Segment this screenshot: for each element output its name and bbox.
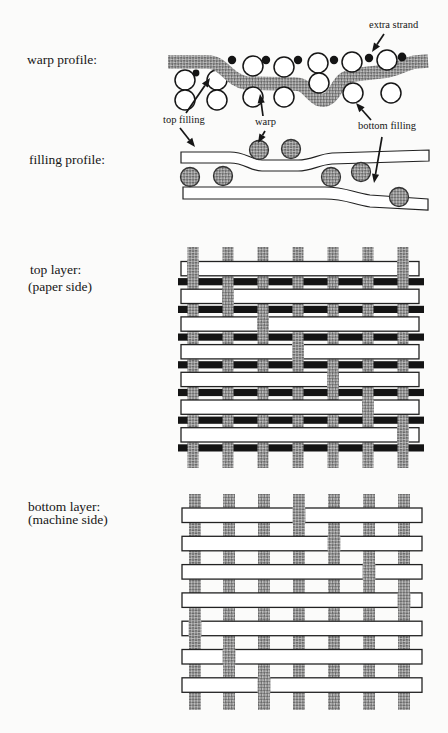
- warp-circle: [181, 168, 200, 187]
- warp-over-strand-patch: [363, 305, 374, 314]
- extra-strand-arrow-head: [372, 43, 380, 52]
- warp-over-strand-patch: [188, 333, 199, 342]
- warp-over-strand-patch: [363, 416, 374, 425]
- extra-strand-dot: [365, 54, 373, 62]
- warp-over-strand-patch: [293, 305, 304, 314]
- filling-band: [181, 289, 419, 303]
- warp-over-strand-patch: [398, 388, 409, 397]
- extra-strand-dot: [262, 56, 270, 64]
- warp-over-strand-patch: [363, 388, 374, 397]
- warp-crossing-patch: [362, 399, 374, 415]
- warp-over-strand-patch: [328, 360, 339, 369]
- warp-circle: [250, 141, 269, 160]
- warp-over-strand-patch: [363, 444, 374, 453]
- warp-over-strand-patch: [258, 277, 269, 286]
- warp-over-strand-patch: [258, 388, 269, 397]
- filling-circle: [274, 87, 294, 107]
- warp-over-strand-patch: [223, 333, 234, 342]
- warp-over-strand-patch: [293, 416, 304, 425]
- warp-arrow-down-line: [263, 131, 265, 135]
- extra-strand-arrow-line: [377, 34, 384, 45]
- filling-band: [182, 536, 422, 551]
- top-filling-circle: [175, 90, 195, 110]
- warp-over-strand-patch: [188, 388, 199, 397]
- top-filling-arrow-down-line: [180, 128, 189, 140]
- warp-over-strand-patch: [223, 305, 234, 314]
- warp-crossing-patch: [363, 564, 376, 581]
- warp-crossing-patch: [257, 316, 269, 332]
- warp-over-strand-patch: [398, 360, 409, 369]
- filling-band: [181, 372, 419, 386]
- warp-over-strand-patch: [188, 277, 199, 286]
- filling-profile-figure: [181, 140, 430, 211]
- warp-over-strand-patch: [223, 360, 234, 369]
- warp-over-strand-patch: [398, 444, 409, 453]
- warp-crossing-patch: [258, 677, 271, 694]
- top-layer-weave: [178, 247, 424, 468]
- extra-strand-dot: [193, 70, 200, 77]
- warp-over-strand-patch: [258, 333, 269, 342]
- filling-circle: [243, 56, 263, 76]
- bottom-layer-weave: [182, 494, 422, 710]
- filling-circle: [342, 52, 362, 72]
- warp-crossing-patch: [292, 344, 304, 360]
- warp-over-strand-patch: [223, 277, 234, 286]
- warp-over-strand-patch: [293, 277, 304, 286]
- warp-arrow-up-line: [261, 103, 263, 116]
- filling-band: [181, 428, 419, 442]
- warp-over-strand-patch: [398, 305, 409, 314]
- warp-over-strand-patch: [328, 416, 339, 425]
- warp-over-strand-patch: [398, 277, 409, 286]
- filling-band: [182, 650, 422, 665]
- warp-over-strand-patch: [188, 416, 199, 425]
- filling-band: [182, 621, 422, 636]
- filling-band: [181, 317, 419, 331]
- warp-over-strand-patch: [328, 305, 339, 314]
- filling-band: [182, 565, 422, 580]
- bottom-filling-arrow-down-head: [372, 174, 379, 183]
- warp-over-strand-patch: [188, 360, 199, 369]
- warp-crossing-patch: [189, 620, 202, 637]
- filling-band: [181, 262, 419, 276]
- filling-circle: [309, 73, 329, 93]
- warp-over-strand-patch: [188, 305, 199, 314]
- warp-over-strand-patch: [258, 416, 269, 425]
- warp-over-strand-patch: [223, 444, 234, 453]
- top-filling-circle: [207, 90, 227, 110]
- warp-circle: [214, 167, 233, 186]
- warp-crossing-patch: [223, 649, 236, 666]
- warp-circle: [352, 163, 371, 182]
- warp-over-strand-patch: [328, 333, 339, 342]
- warp-over-strand-patch: [293, 360, 304, 369]
- weave-diagram: [0, 0, 448, 733]
- warp-over-strand-patch: [188, 444, 199, 453]
- filling-band: [182, 678, 422, 693]
- extra-strand-dot: [330, 56, 338, 64]
- diagram-page: warp profile: filling profile: top layer…: [0, 0, 448, 733]
- warp-over-strand-patch: [328, 277, 339, 286]
- warp-over-strand-patch: [398, 416, 409, 425]
- warp-over-strand-patch: [258, 360, 269, 369]
- warp-over-strand-patch: [258, 305, 269, 314]
- warp-over-strand-patch: [328, 388, 339, 397]
- warp-crossing-patch: [222, 288, 234, 304]
- warp-over-strand-patch: [363, 277, 374, 286]
- warp-crossing-patch: [397, 427, 409, 443]
- warp-over-strand-patch: [223, 388, 234, 397]
- warp-circle: [390, 188, 409, 207]
- warp-over-strand-patch: [293, 388, 304, 397]
- warp-crossing-patch: [293, 507, 306, 524]
- extra-strand-dot: [294, 56, 302, 64]
- top-filling-circle: [175, 70, 195, 90]
- filling-circle: [381, 83, 401, 103]
- warp-crossing-patch: [327, 371, 339, 387]
- filling-band: [181, 400, 419, 414]
- warp-crossing-patch: [328, 535, 341, 552]
- warp-profile-figure: [168, 50, 428, 110]
- warp-crossing-patch: [187, 261, 199, 277]
- warp-over-strand-patch: [328, 444, 339, 453]
- warp-over-strand-patch: [363, 360, 374, 369]
- warp-circle: [282, 140, 301, 159]
- warp-crossing-patch: [398, 592, 411, 609]
- warp-over-strand-patch: [398, 333, 409, 342]
